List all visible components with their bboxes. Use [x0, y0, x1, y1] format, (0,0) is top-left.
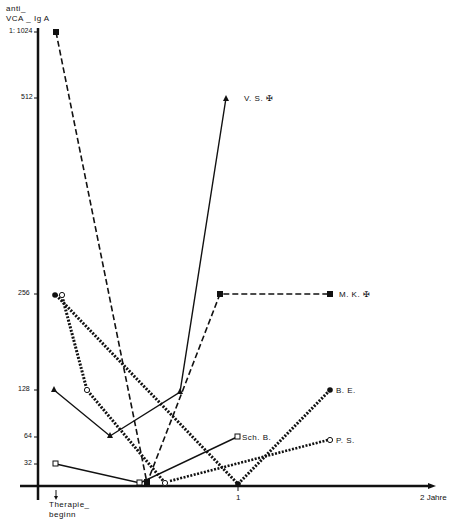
series-be-line	[56, 295, 330, 484]
series-vs-markers	[51, 95, 229, 438]
x-tick-label-1: 1	[236, 493, 240, 502]
y-tick-label-256: 256	[18, 289, 30, 296]
series-label-be: B. E.	[336, 386, 356, 395]
series-label-vs: V. S. ✠	[244, 94, 273, 103]
series-label-mk: M. K. ✠	[339, 290, 370, 299]
y-tick-label-1024: 1: 1024	[9, 27, 32, 34]
y-tick-label-512: 512	[21, 93, 33, 100]
y-tick-label-32: 32	[24, 459, 32, 466]
series-ps-line-a	[62, 296, 165, 483]
series-label-schb: Sch. B.	[242, 433, 271, 442]
therapy-label-line2: beginn	[49, 510, 76, 520]
chart-canvas	[0, 0, 466, 525]
series-label-ps: P. S.	[336, 436, 355, 445]
y-tick-label-64: 64	[24, 432, 32, 439]
series-mk-markers	[53, 29, 333, 485]
y-axis-title-line2: VCA _ Ig A	[6, 14, 50, 24]
y-tick-label-128: 128	[18, 385, 30, 392]
series-mk-line	[56, 32, 330, 483]
titer-chart: anti_ VCA _ Ig A 1: 1024 512 256 128 64 …	[0, 0, 466, 525]
y-axis-title-line1: anti_	[6, 4, 26, 14]
x-axis-arrow-icon	[428, 483, 436, 489]
therapy-label-line1: Therapie_	[49, 500, 90, 510]
x-tick-label-2-jahre: 2 Jahre	[420, 493, 447, 502]
